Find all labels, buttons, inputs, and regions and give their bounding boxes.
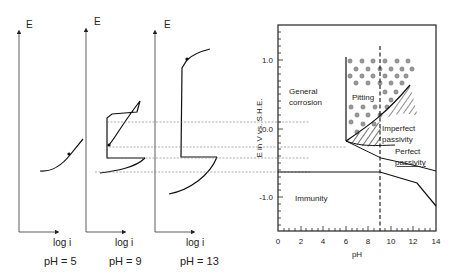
log-i-label-ph9: log i — [115, 237, 133, 248]
ph-label-5: pH = 5 — [44, 255, 77, 267]
e-axis-label-ph5: E — [26, 19, 33, 30]
region-imperfect-passivity-line1: Imperfect — [382, 124, 416, 133]
ph-label-13: pH = 13 — [180, 255, 219, 267]
x-tick-0: 0 — [276, 237, 281, 246]
e-axis-label-ph9: E — [94, 16, 101, 27]
x-axis-label: pH — [352, 250, 362, 259]
x-tick-12: 12 — [409, 237, 418, 246]
log-i-label-ph5: log i — [53, 237, 71, 248]
x-tick-14: 14 — [432, 237, 441, 246]
region-perfect-passivity-line1: Perfect — [395, 147, 421, 156]
e-axis-label-ph13: E — [164, 19, 171, 30]
polarization-panel-ph13 — [155, 32, 217, 232]
x-tick-6: 6 — [344, 237, 349, 246]
region-general-corrosion-line2: corrosion — [289, 98, 322, 107]
x-tick-2: 2 — [299, 237, 304, 246]
polarization-panel-ph5 — [19, 32, 83, 232]
log-i-label-ph13: log i — [186, 237, 204, 248]
region-imperfect-passivity-line2: passivity — [382, 135, 413, 144]
y-tick-1: 1.0 — [262, 56, 274, 65]
potential-guide-lines — [95, 122, 346, 172]
y-axis-label: E in V vs. S.H.E. — [255, 98, 264, 157]
ph-label-9: pH = 9 — [109, 255, 142, 267]
polarization-panel-ph9 — [86, 30, 145, 232]
diagram-canvas: E log i pH = 5 E log i pH = 9 E log i pH… — [0, 0, 454, 280]
region-pitting: Pitting — [352, 93, 374, 102]
region-general-corrosion-line1: General — [289, 87, 318, 96]
y-tick-minus1: -1.0 — [259, 193, 273, 202]
region-immunity: Immunity — [295, 194, 327, 203]
x-tick-4: 4 — [321, 237, 326, 246]
region-perfect-passivity-line2: passivity — [395, 158, 426, 167]
x-tick-8: 8 — [366, 237, 371, 246]
x-tick-10: 10 — [387, 237, 396, 246]
